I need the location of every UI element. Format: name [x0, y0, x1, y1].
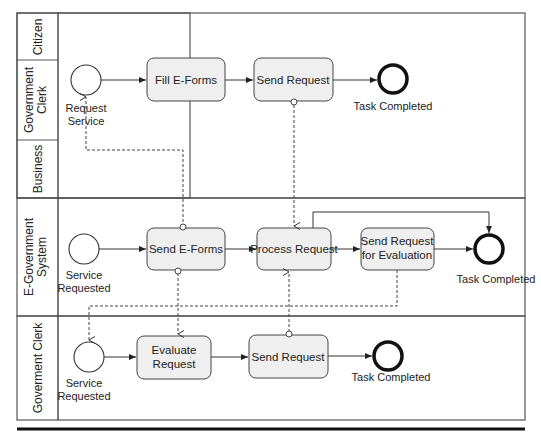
task-send-request-clerk[interactable]: Send Request — [249, 335, 328, 378]
svg-text:Task Completed: Task Completed — [352, 371, 431, 383]
bpmn-diagram: Citizen Government Clerk Business E-Gove… — [0, 0, 541, 441]
end-event-task-completed-2[interactable] — [475, 235, 503, 263]
svg-text:Clerk: Clerk — [35, 85, 49, 114]
start-event-service-requested-egov[interactable] — [69, 234, 99, 264]
end-event-task-completed-1[interactable] — [379, 65, 407, 93]
lane-label-citizen: Citizen — [31, 19, 45, 56]
svg-text:Service: Service — [66, 269, 103, 281]
svg-text:E-Government: E-Government — [22, 217, 36, 296]
lane-label-egov-system: E-Government System — [22, 217, 49, 296]
svg-text:System: System — [35, 237, 49, 277]
svg-text:Send Request: Send Request — [361, 235, 435, 247]
start-event-request-service[interactable] — [71, 65, 101, 95]
svg-text:Goverment Clerk: Goverment Clerk — [31, 322, 45, 414]
task-send-e-forms[interactable]: Send E-Forms — [147, 228, 225, 270]
svg-text:Requested: Requested — [57, 282, 110, 294]
svg-text:Business: Business — [31, 145, 45, 194]
task-fill-e-forms[interactable]: Fill E-Forms — [147, 58, 225, 101]
start-event-service-requested-clerk[interactable] — [74, 342, 104, 372]
task-process-request[interactable]: Process Request — [250, 228, 338, 270]
svg-text:Request: Request — [153, 358, 197, 370]
lane-label-government-clerk: Government Clerk — [22, 66, 49, 133]
svg-text:Requested: Requested — [57, 390, 110, 402]
svg-text:Send Request: Send Request — [257, 74, 331, 86]
task-send-request-for-evaluation[interactable]: Send Request for Evaluation — [361, 228, 435, 270]
end-event-task-completed-3[interactable] — [374, 342, 402, 370]
svg-text:Send Request: Send Request — [252, 351, 326, 363]
lane-label-business: Business — [31, 145, 45, 194]
svg-text:Process Request: Process Request — [250, 243, 338, 255]
task-send-request-citizen[interactable]: Send Request — [254, 58, 333, 101]
svg-text:Fill E-Forms: Fill E-Forms — [155, 74, 217, 86]
svg-text:Send E-Forms: Send E-Forms — [149, 243, 223, 255]
message-flow-origins — [175, 99, 297, 337]
end-event-label: Task Completed — [354, 100, 433, 112]
task-evaluate-request[interactable]: Evaluate Request — [137, 336, 211, 379]
svg-text:Citizen: Citizen — [31, 19, 45, 56]
svg-text:Government: Government — [22, 66, 36, 133]
svg-text:Task Completed: Task Completed — [457, 273, 536, 285]
lane-label-goverment-clerk: Goverment Clerk — [31, 322, 45, 414]
svg-text:Evaluate: Evaluate — [152, 344, 197, 356]
svg-text:for Evaluation: for Evaluation — [362, 249, 432, 261]
svg-text:Service: Service — [66, 377, 103, 389]
